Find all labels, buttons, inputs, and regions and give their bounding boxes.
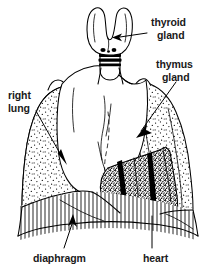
diaphragm-label: diaphragm bbox=[33, 252, 86, 264]
heart-label: heart bbox=[143, 252, 169, 264]
thyroid-label-line1: thyroid bbox=[151, 16, 186, 28]
label-thyroid-gland: thyroid gland bbox=[151, 16, 186, 41]
label-thymus-gland: thymus gland bbox=[156, 58, 193, 83]
label-heart: heart bbox=[143, 252, 169, 264]
anatomy-illustration: thyroid gland thymus gland right lung di… bbox=[0, 0, 216, 276]
label-right-lung: right lung bbox=[8, 89, 31, 114]
right-lung-label-line1: right bbox=[8, 89, 31, 101]
thymus-label-line2: gland bbox=[162, 71, 190, 83]
thymus-label-line1: thymus bbox=[156, 58, 193, 70]
right-lung-label-line2: lung bbox=[8, 102, 30, 114]
label-diaphragm: diaphragm bbox=[33, 252, 86, 264]
thyroid-label-line2: gland bbox=[157, 29, 185, 41]
anatomy-figure: thyroid gland thymus gland right lung di… bbox=[0, 0, 216, 276]
